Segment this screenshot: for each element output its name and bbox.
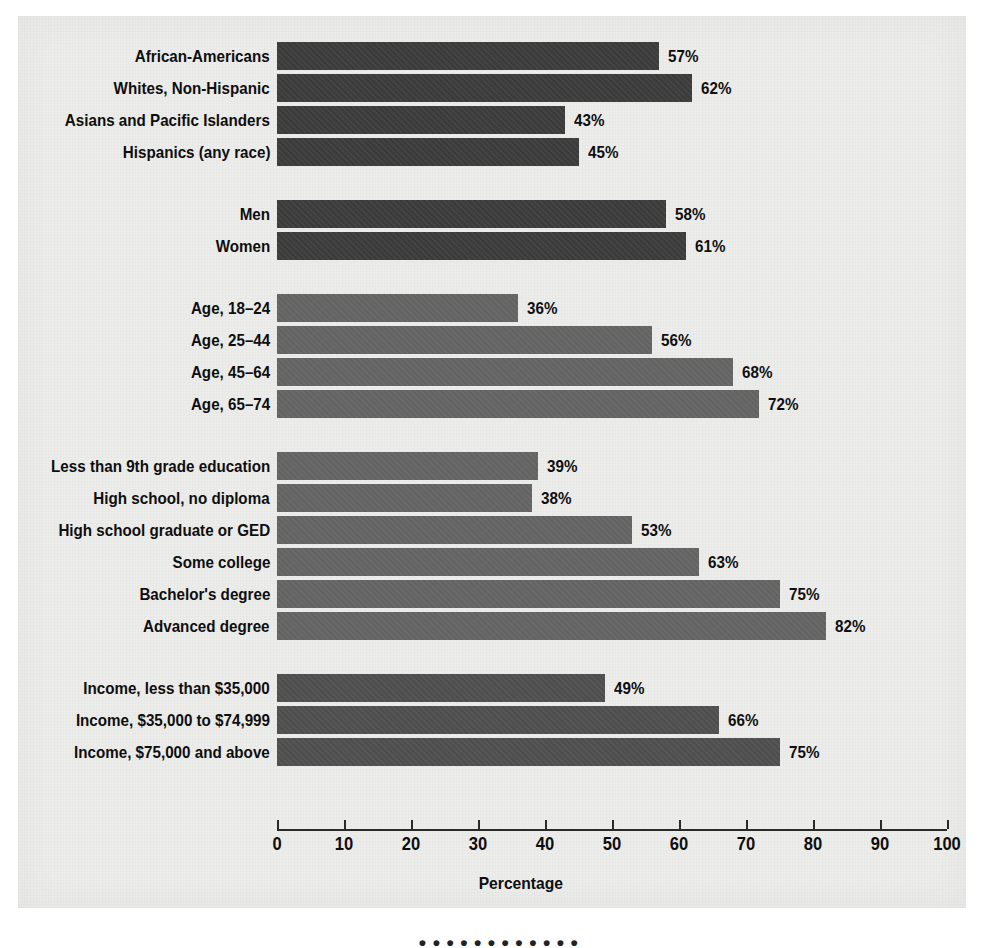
x-axis-tick-label: 70: [737, 834, 755, 855]
x-axis-tick: [746, 820, 748, 829]
bar-value-label: 53%: [641, 516, 671, 544]
bar-value-label: 56%: [661, 326, 691, 354]
bar-value-label: 49%: [614, 674, 644, 702]
x-axis-tick-label: 10: [335, 834, 353, 855]
x-axis-tick: [880, 820, 882, 829]
bar-value-label: 63%: [708, 548, 738, 576]
x-axis-tick: [344, 820, 346, 829]
bar: [277, 548, 699, 576]
bar-value-label: 45%: [588, 138, 618, 166]
bar-row: Hispanics (any race)45%: [0, 138, 997, 166]
bar: [277, 738, 780, 766]
bar-value-label: 72%: [768, 390, 798, 418]
x-axis-tick: [813, 820, 815, 829]
bar: [277, 612, 826, 640]
bar-category-label: Asians and Pacific Islanders: [65, 106, 270, 134]
x-axis-tick-label: 0: [272, 834, 281, 855]
bar-value-label: 38%: [541, 484, 571, 512]
bar-row: Whites, Non-Hispanic62%: [0, 74, 997, 102]
bar: [277, 42, 659, 70]
x-axis-tick: [545, 820, 547, 829]
bar-value-label: 68%: [742, 358, 772, 386]
bar-category-label: Income, less than $35,000: [84, 674, 270, 702]
x-axis-line: [277, 829, 947, 831]
bar-value-label: 61%: [695, 232, 725, 260]
bar: [277, 106, 565, 134]
chart-page: African-Americans57%Whites, Non-Hispanic…: [0, 0, 997, 948]
x-axis-tick-label: 50: [603, 834, 621, 855]
x-axis-title-label: Percentage: [478, 874, 562, 894]
x-axis-tick: [478, 820, 480, 829]
bar-row: Advanced degree82%: [0, 612, 997, 640]
bar-category-label: Age, 18–24: [191, 294, 270, 322]
bar-row: Age, 45–6468%: [0, 358, 997, 386]
bar-category-label: Age, 45–64: [191, 358, 270, 386]
x-axis-tick: [947, 820, 949, 829]
bar-category-label: Advanced degree: [143, 612, 270, 640]
bar-category-label: Income, $35,000 to $74,999: [76, 706, 270, 734]
bar-category-label: Less than 9th grade education: [51, 452, 270, 480]
bar-value-label: 58%: [675, 200, 705, 228]
bar-row: Asians and Pacific Islanders43%: [0, 106, 997, 134]
bar-value-label: 75%: [789, 580, 819, 608]
bar-category-label: Age, 25–44: [191, 326, 270, 354]
bar-category-label: Women: [215, 232, 270, 260]
bar-value-label: 43%: [574, 106, 604, 134]
bar-row: Age, 18–2436%: [0, 294, 997, 322]
bar-category-label: Some college: [172, 548, 270, 576]
bar-row: Age, 65–7472%: [0, 390, 997, 418]
bar: [277, 200, 666, 228]
bar-row: Men58%: [0, 200, 997, 228]
bar: [277, 74, 692, 102]
x-axis-tick-label: 90: [871, 834, 889, 855]
bar-category-label: Hispanics (any race): [122, 138, 270, 166]
bar-row: Income, less than $35,00049%: [0, 674, 997, 702]
bar-value-label: 36%: [527, 294, 557, 322]
bar-row: Income, $75,000 and above75%: [0, 738, 997, 766]
bar-value-label: 82%: [835, 612, 865, 640]
bar-category-label: High school, no diploma: [94, 484, 270, 512]
bar-category-label: Age, 65–74: [191, 390, 270, 418]
bar-category-label: Men: [240, 200, 270, 228]
x-axis-tick-label: 20: [402, 834, 420, 855]
x-axis-tick: [411, 820, 413, 829]
bar-value-label: 62%: [701, 74, 731, 102]
bar-row: Some college63%: [0, 548, 997, 576]
bar-row: Income, $35,000 to $74,99966%: [0, 706, 997, 734]
bar: [277, 232, 686, 260]
x-axis-tick: [277, 820, 279, 829]
bar-row: African-Americans57%: [0, 42, 997, 70]
bar-category-label: African-Americans: [135, 42, 270, 70]
x-axis-tick-label: 80: [804, 834, 822, 855]
bar-value-label: 66%: [728, 706, 758, 734]
bar-row: Less than 9th grade education39%: [0, 452, 997, 480]
x-axis-tick-label: 40: [536, 834, 554, 855]
bar-category-label: Income, $75,000 and above: [74, 738, 270, 766]
x-axis-tick: [612, 820, 614, 829]
bar-row: High school, no diploma38%: [0, 484, 997, 512]
bar-chart-plot-area: African-Americans57%Whites, Non-Hispanic…: [0, 0, 997, 948]
bar: [277, 358, 733, 386]
x-axis-tick: [679, 820, 681, 829]
x-axis-tick-label: 30: [469, 834, 487, 855]
bar: [277, 674, 605, 702]
x-axis-tick-label: 60: [670, 834, 688, 855]
bar: [277, 390, 759, 418]
bar-row: Age, 25–4456%: [0, 326, 997, 354]
bar-row: Bachelor's degree75%: [0, 580, 997, 608]
x-axis-title: Percentage: [0, 874, 997, 894]
bar-category-label: High school graduate or GED: [58, 516, 270, 544]
bar: [277, 138, 579, 166]
bar: [277, 580, 780, 608]
bar-value-label: 39%: [547, 452, 577, 480]
bar-category-label: Bachelor's degree: [139, 580, 270, 608]
bar-row: High school graduate or GED53%: [0, 516, 997, 544]
bar: [277, 452, 538, 480]
bar-value-label: 57%: [668, 42, 698, 70]
bar-category-label: Whites, Non-Hispanic: [114, 74, 270, 102]
bar: [277, 516, 632, 544]
bar-value-label: 75%: [789, 738, 819, 766]
bar-row: Women61%: [0, 232, 997, 260]
bar: [277, 484, 532, 512]
bar: [277, 706, 719, 734]
